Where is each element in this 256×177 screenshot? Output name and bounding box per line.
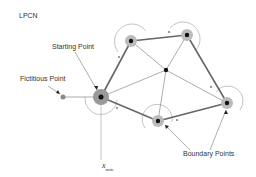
boundary-edges [101,35,227,121]
xmin-sub: min [106,167,114,172]
pointer-arrowheads [56,86,228,129]
node-start [99,95,104,100]
node-bottom [156,119,160,123]
node-right [225,101,229,105]
diagram-title: LPCN [19,12,38,19]
label-boundary-points: Boundary Points [183,150,234,157]
node-top-left [129,39,133,43]
node-fictitious [61,95,66,100]
label-starting-point: Starting Point [52,43,94,50]
node-top-right [185,33,189,37]
node-center [164,68,168,72]
label-xmin: xmin [102,161,113,172]
label-fictitious-point: Fictitious Point [20,75,66,82]
pointer-lines [48,52,226,150]
